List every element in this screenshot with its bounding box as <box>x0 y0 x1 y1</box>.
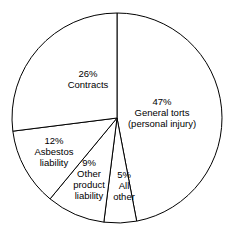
pie-label-line: 47% <box>152 96 172 107</box>
pie-label-line: other <box>113 191 135 202</box>
pie-label-line: product <box>73 178 105 189</box>
pie-label-line: All <box>119 180 130 191</box>
pie-label-line: Other <box>77 167 101 178</box>
pie-chart-svg: 47%General torts(personal injury)5%Allot… <box>0 0 232 237</box>
pie-label-line: Asbestos <box>34 146 73 157</box>
pie-label-line: 26% <box>78 67 98 78</box>
pie-label-line: 5% <box>117 169 131 180</box>
pie-chart-figure: 47%General torts(personal injury)5%Allot… <box>0 0 232 237</box>
pie-label-line: Contracts <box>68 78 109 89</box>
pie-label-line: (personal injury) <box>128 118 196 129</box>
pie-slice-contracts[interactable] <box>12 13 117 131</box>
pie-label-line: liability <box>75 189 104 200</box>
pie-label-line: liability <box>40 157 69 168</box>
pie-label-line: 12% <box>44 135 64 146</box>
pie-label-line: General torts <box>135 107 190 118</box>
pie-label-line: 9% <box>82 156 96 167</box>
